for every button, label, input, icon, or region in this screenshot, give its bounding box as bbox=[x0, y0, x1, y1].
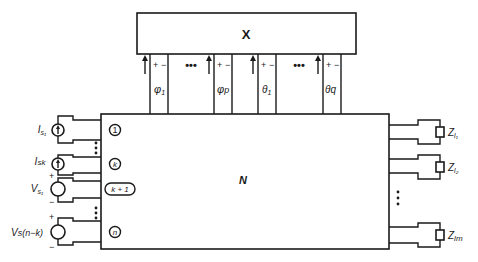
top-port-phi-p: + − φp bbox=[206, 54, 232, 114]
minus-sign: − bbox=[269, 60, 274, 70]
ellipsis-left-upper bbox=[95, 142, 98, 155]
plus-sign: + bbox=[217, 60, 222, 70]
right-load-1: Zl₁ bbox=[389, 120, 459, 144]
plus-sign: + bbox=[153, 60, 158, 70]
arrow-head-icon bbox=[206, 55, 212, 61]
source-label-is1: Is₁ bbox=[38, 124, 47, 136]
port-label-phi-1: φ1 bbox=[154, 83, 165, 96]
ellipsis-top-left: ••• bbox=[185, 59, 197, 71]
network-n-block: N bbox=[101, 114, 389, 249]
network-diagram: X N + − φ1 ••• + − φp + − θ1 ••• bbox=[0, 0, 478, 262]
plus-sign: + bbox=[49, 171, 54, 181]
minus-sign: − bbox=[49, 242, 54, 252]
ellipsis-top-right: ••• bbox=[293, 59, 305, 71]
ellipsis-right bbox=[397, 191, 400, 206]
port-number-k-plus-1: k + 1 bbox=[111, 185, 129, 194]
minus-sign: − bbox=[49, 197, 54, 207]
voltage-source-icon bbox=[51, 182, 65, 196]
arrow-head-icon bbox=[250, 55, 256, 61]
port-label-theta-1: θ1 bbox=[262, 84, 271, 96]
source-label-vsnk: Vs(n−k) bbox=[11, 227, 43, 238]
port-number-1: 1 bbox=[112, 125, 117, 135]
load-label-zl1: Zl₁ bbox=[447, 127, 459, 139]
source-label-vs1: Vs₁ bbox=[31, 183, 44, 195]
ellipsis-left-lower bbox=[95, 207, 98, 220]
impedance-icon bbox=[436, 162, 444, 172]
port-label-phi-p: φp bbox=[217, 83, 229, 95]
minus-sign: − bbox=[225, 60, 230, 70]
right-load-2: Zl₂ bbox=[389, 155, 459, 179]
impedance-icon bbox=[436, 230, 444, 240]
plus-sign: + bbox=[326, 60, 331, 70]
load-label-zl2: Zl₂ bbox=[447, 162, 459, 174]
top-port-theta-q: + − θq bbox=[315, 54, 341, 114]
network-n-label: N bbox=[239, 174, 248, 186]
plus-sign: + bbox=[261, 60, 266, 70]
x-block-label: X bbox=[242, 27, 251, 42]
minus-sign: − bbox=[161, 60, 166, 70]
load-label-zlm: Zlm bbox=[447, 230, 463, 243]
impedance-icon bbox=[436, 127, 444, 137]
plus-sign: + bbox=[49, 212, 54, 222]
arrow-head-icon bbox=[142, 55, 148, 61]
voltage-source-icon bbox=[51, 225, 65, 239]
arrow-head-icon bbox=[315, 55, 321, 61]
minus-sign: − bbox=[334, 60, 339, 70]
port-number-n: n bbox=[113, 228, 118, 237]
top-port-theta-1: + − θ1 bbox=[250, 54, 276, 114]
right-load-m: Zlm bbox=[389, 223, 463, 247]
port-label-theta-q: θq bbox=[325, 84, 336, 95]
x-block: X bbox=[137, 13, 356, 54]
top-port-phi-1: + − φ1 bbox=[142, 54, 168, 114]
source-label-isk: Isk bbox=[35, 156, 47, 167]
